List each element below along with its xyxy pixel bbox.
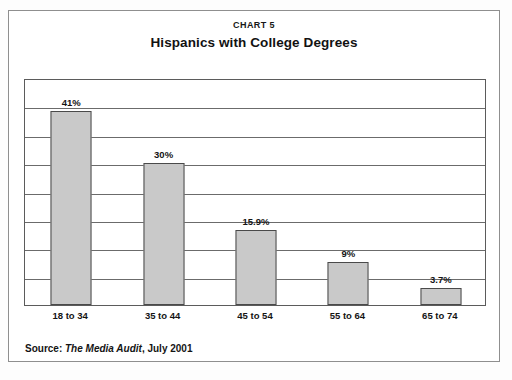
chart-card: CHART 5 Hispanics with College Degrees 4… — [8, 10, 500, 362]
bar-group: 30% — [117, 80, 209, 305]
category-label: 45 to 54 — [237, 310, 272, 321]
bar[interactable] — [420, 288, 461, 305]
source-suffix: , July 2001 — [142, 343, 193, 354]
source-prefix: Source: — [25, 343, 62, 354]
category-label: 55 to 64 — [330, 310, 365, 321]
bar-value-label: 41% — [62, 97, 81, 108]
bar-group: 41% — [25, 80, 117, 305]
bar-value-label: 9% — [342, 248, 356, 259]
source-publication: The Media Audit — [65, 343, 142, 354]
bar-group: 15.9% — [210, 80, 302, 305]
chart-title: Hispanics with College Degrees — [9, 35, 499, 50]
category-label: 35 to 44 — [145, 310, 180, 321]
screenshot-canvas: CHART 5 Hispanics with College Degrees 4… — [0, 0, 512, 380]
bar[interactable] — [235, 230, 276, 305]
category-label: 18 to 34 — [52, 310, 87, 321]
chart-number-label: CHART 5 — [9, 20, 499, 30]
bar-group: 3.7% — [395, 80, 487, 305]
category-axis: 18 to 3435 to 4445 to 5455 to 6465 to 74 — [24, 310, 486, 330]
source-note: Source: The Media Audit, July 2001 — [25, 343, 192, 354]
category-label: 65 to 74 — [422, 310, 457, 321]
bar[interactable] — [143, 163, 184, 305]
bar[interactable] — [328, 262, 369, 305]
plot-area: 41%30%15.9%9%3.7% — [24, 79, 486, 306]
bars-group: 41%30%15.9%9%3.7% — [25, 80, 485, 305]
bar-value-label: 3.7% — [430, 274, 452, 285]
bar-group: 9% — [302, 80, 394, 305]
bar-value-label: 30% — [154, 149, 173, 160]
bar-value-label: 15.9% — [243, 216, 270, 227]
bar[interactable] — [51, 111, 92, 305]
